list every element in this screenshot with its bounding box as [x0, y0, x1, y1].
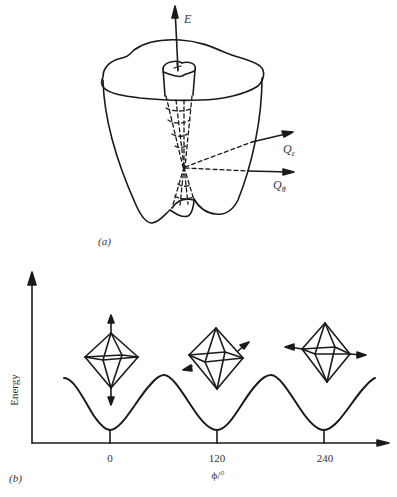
figure-canvas: E Qε Qθ (a) Energy 0 120 240 ϕ/° (b)	[0, 0, 397, 497]
panel-a-label: (a)	[98, 235, 111, 248]
q-theta-arrow	[283, 169, 294, 175]
conical-intersection	[166, 96, 252, 208]
q-epsilon-label: Qε	[283, 142, 296, 158]
y-axis-label: Energy	[8, 374, 20, 406]
y-axis-arrow	[28, 272, 36, 285]
inner-tube-right	[193, 70, 195, 95]
octahedron-phi-120	[183, 328, 249, 389]
trough-bottom-back	[172, 199, 194, 208]
xtick-label-240: 240	[317, 452, 334, 464]
octahedron-phi-0	[85, 315, 138, 405]
x-axis-arrow	[377, 440, 389, 446]
panel-b-label: (b)	[9, 472, 22, 485]
q-theta-label: Qθ	[273, 178, 286, 194]
xtick-label-120: 120	[209, 452, 226, 464]
x-axis-label: ϕ/°	[211, 469, 224, 481]
panel-a-surface	[102, 40, 264, 223]
surface-left-wall	[103, 80, 170, 223]
xtick-label-0: 0	[107, 452, 113, 464]
q-epsilon-arrow	[282, 131, 293, 137]
surface-right-wall	[194, 78, 262, 214]
energy-axis-label: E	[183, 12, 192, 26]
inner-tube-top	[163, 61, 195, 76]
origin-cross	[174, 63, 181, 71]
surface-rim	[102, 40, 264, 101]
panel-b-axes	[28, 272, 389, 446]
octahedron-phi-240	[285, 323, 366, 382]
energy-axis-arrow	[172, 6, 178, 18]
